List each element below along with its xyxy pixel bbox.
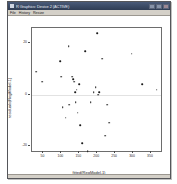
r-graphics-window: R Graphics: Device 2 (ACTIVE) File Histo… (7, 1, 171, 179)
data-point (36, 71, 38, 73)
data-point (156, 89, 158, 91)
data-point (106, 104, 108, 106)
data-point (77, 112, 79, 114)
data-point (74, 91, 76, 93)
x-axis-tick-label: 50 (41, 154, 45, 158)
data-point (93, 91, 95, 93)
x-axis-tick-label: 100 (58, 154, 64, 158)
scatter-plot: residuals(RegModel.1) fitted(RegModel.1)… (8, 17, 170, 178)
data-point (81, 143, 83, 145)
y-axis-tick (28, 42, 30, 43)
data-point (96, 32, 98, 34)
data-point (95, 86, 97, 88)
data-point (65, 117, 67, 119)
x-axis-tick (96, 151, 97, 153)
data-point (72, 76, 74, 78)
data-point (87, 150, 89, 152)
close-button[interactable] (163, 4, 169, 9)
y-axis-tick-label: 20 (23, 40, 27, 44)
data-point (84, 50, 86, 52)
maximize-button[interactable] (156, 4, 162, 9)
x-axis-tick (42, 151, 43, 153)
x-axis-tick-label: 350 (147, 154, 153, 158)
data-point (41, 81, 43, 83)
x-axis-tick-label: 200 (93, 154, 99, 158)
data-point (104, 135, 106, 137)
data-point (79, 84, 81, 86)
data-point (61, 76, 63, 78)
data-point (97, 94, 99, 96)
plot-panel (31, 27, 162, 152)
data-point (109, 122, 111, 124)
data-point (101, 58, 103, 60)
menu-file[interactable]: File (10, 11, 16, 15)
window-titlebar[interactable]: R Graphics: Device 2 (ACTIVE) (8, 2, 170, 10)
x-axis-tick (132, 151, 133, 153)
data-point (62, 107, 64, 109)
data-point (142, 84, 144, 86)
menu-history[interactable]: History (19, 11, 30, 15)
window-controls (149, 4, 169, 9)
x-axis-tick (150, 151, 151, 153)
screen: R Graphics: Device 2 (ACTIVE) File Histo… (0, 0, 177, 184)
x-axis-tick (60, 151, 61, 153)
x-axis-tick-label: 150 (75, 154, 81, 158)
y-axis-tick (28, 94, 30, 95)
data-point (72, 78, 74, 80)
x-axis-tick-label: 250 (111, 154, 117, 158)
window-title: R Graphics: Device 2 (ACTIVE) (16, 4, 149, 9)
data-point (90, 102, 92, 104)
data-point (59, 61, 61, 63)
statusbar (8, 174, 170, 178)
data-point (75, 102, 77, 104)
data-point (99, 91, 101, 93)
y-axis-tick (28, 145, 30, 146)
data-point (79, 125, 81, 127)
data-point (68, 45, 70, 47)
x-axis-tick (78, 151, 79, 153)
chart-icon (10, 4, 14, 8)
data-point (76, 89, 78, 91)
y-axis-label: residuals(RegModel.1) (8, 77, 12, 117)
graphics-client-area: residuals(RegModel.1) fitted(RegModel.1)… (8, 16, 170, 178)
x-axis-tick (114, 151, 115, 153)
y-axis-tick-label: 0 (25, 92, 27, 96)
data-point (73, 81, 75, 83)
menu-resize[interactable]: Resize (33, 11, 44, 15)
data-point (68, 104, 70, 106)
x-axis-tick-label: 300 (129, 154, 135, 158)
y-axis-tick-label: -20 (22, 143, 27, 147)
minimize-button[interactable] (149, 4, 155, 9)
data-point (131, 53, 133, 55)
